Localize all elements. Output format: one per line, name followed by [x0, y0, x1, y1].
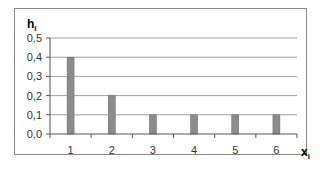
- x-tick-label: 5: [232, 144, 238, 156]
- x-tick-label: 4: [191, 144, 197, 156]
- y-axis-ticks: 0,00,10,20,30,40,5: [27, 32, 50, 140]
- y-tick-label: 0,5: [27, 32, 42, 44]
- bar-2: [108, 96, 115, 134]
- x-tick-label: 3: [150, 144, 156, 156]
- y-axis-label: hi: [27, 17, 37, 33]
- bar-4: [191, 115, 198, 134]
- x-axis-ticks: 123456: [50, 134, 297, 156]
- y-tick-label: 0,1: [27, 109, 42, 121]
- y-tick-label: 0,4: [27, 51, 42, 63]
- x-tick-label: 2: [109, 144, 115, 156]
- y-tick-label: 0,0: [27, 128, 42, 140]
- y-tick-label: 0,3: [27, 70, 42, 82]
- x-axis-label: xi: [301, 145, 310, 161]
- x-tick-label: 1: [68, 144, 74, 156]
- y-tick-label: 0,2: [27, 90, 42, 102]
- bar-3: [149, 115, 156, 134]
- bar-chart: 0,00,10,20,30,40,5 123456 hi xi: [0, 0, 325, 169]
- gridlines: [50, 38, 297, 115]
- bar-6: [273, 115, 280, 134]
- x-tick-label: 6: [273, 144, 279, 156]
- bar-1: [67, 57, 74, 134]
- bar-5: [232, 115, 239, 134]
